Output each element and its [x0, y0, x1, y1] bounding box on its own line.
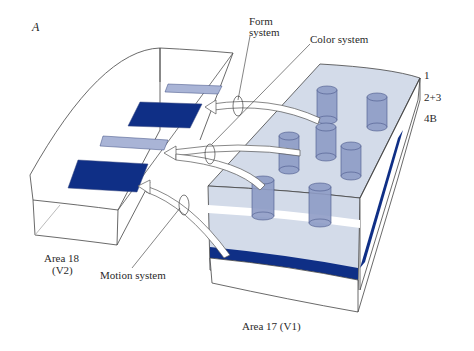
color-system-label: Color system — [310, 34, 368, 45]
blob — [367, 93, 387, 131]
blob — [309, 183, 331, 227]
motion-system-label: Motion system — [100, 270, 166, 281]
layer-label-2-3: 2+3 — [424, 92, 441, 103]
thin-stripe-1 — [165, 84, 222, 94]
layer-label-1: 1 — [424, 70, 430, 81]
visual-pathways-diagram — [0, 0, 474, 351]
thick-stripe-2 — [68, 160, 148, 192]
area18-label-line2: (V2) — [52, 265, 73, 276]
thick-stripe-1 — [128, 102, 202, 128]
area18-label-line1: Area 18 — [44, 253, 79, 264]
panel-letter: A — [32, 20, 39, 35]
blob — [341, 142, 361, 180]
form-system-label-line2: system — [249, 27, 280, 38]
blob — [316, 123, 336, 161]
area17-label: Area 17 (V1) — [242, 321, 301, 332]
layer-label-4b: 4B — [424, 113, 437, 124]
